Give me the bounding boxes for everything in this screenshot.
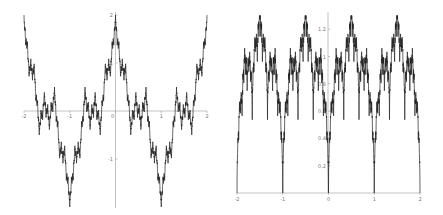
x-tick-label: -2 bbox=[22, 113, 27, 119]
y-tick-label: 1 bbox=[323, 54, 326, 60]
y-tick-label: 1.2 bbox=[318, 26, 326, 32]
right-series-line bbox=[237, 16, 420, 193]
y-tick-label: 0.4 bbox=[318, 135, 326, 141]
x-tick-label: 2 bbox=[205, 113, 208, 119]
x-tick-label: 1 bbox=[373, 196, 376, 202]
left-chart-svg: -2-101221-1 bbox=[0, 0, 222, 215]
left-chart: -2-101221-1 bbox=[0, 0, 222, 215]
right-chart: -2-10120.20.40.60.811.2 bbox=[222, 0, 443, 215]
x-tick-label: 0 bbox=[327, 196, 330, 202]
x-tick-label: -2 bbox=[235, 196, 240, 202]
right-chart-svg: -2-10120.20.40.60.811.2 bbox=[222, 0, 443, 215]
x-tick-label: 2 bbox=[418, 196, 421, 202]
x-tick-label: 0 bbox=[111, 113, 114, 119]
x-tick-label: -1 bbox=[280, 196, 285, 202]
x-tick-label: 1 bbox=[160, 113, 163, 119]
y-tick-label: 0.2 bbox=[318, 163, 326, 169]
x-tick-label: -1 bbox=[67, 113, 72, 119]
y-tick-label: 2 bbox=[110, 12, 113, 18]
y-tick-label: -1 bbox=[108, 156, 113, 162]
left-tick-labels: -2-101221-1 bbox=[22, 12, 209, 162]
